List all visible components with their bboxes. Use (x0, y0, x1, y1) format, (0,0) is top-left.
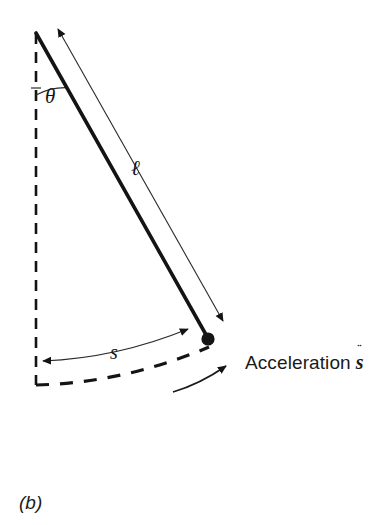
length-label-l: ℓ (131, 158, 140, 179)
length-dimension-line (58, 29, 223, 321)
angle-label-theta: θ (45, 86, 55, 107)
pendulum-figure: θ ℓ s Acceleration¨s (b) (0, 0, 391, 525)
double-dot-accent: ¨ (357, 342, 363, 355)
acceleration-symbol-s: ¨s (356, 351, 364, 373)
pendulum-bob (201, 332, 214, 345)
swing-path-arc (36, 347, 209, 385)
acceleration-label-text: Acceleration (245, 352, 351, 373)
pendulum-rod (36, 33, 209, 340)
arc-length-label-s: s (110, 342, 118, 362)
figure-caption: (b) (19, 492, 42, 514)
pendulum-diagram (0, 0, 391, 525)
acceleration-arrow (173, 366, 226, 392)
acceleration-label: Acceleration¨s (245, 352, 364, 372)
